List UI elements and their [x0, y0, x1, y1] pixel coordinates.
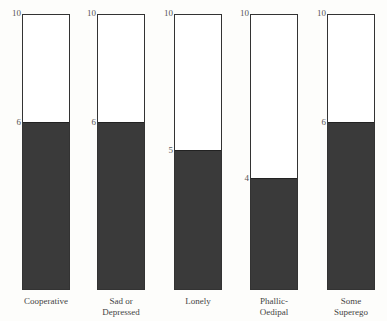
category-label: Sad orDepressed	[86, 296, 156, 318]
bar-some-superego	[327, 14, 375, 290]
bar-fill	[175, 150, 221, 289]
max-tick-label: 10	[235, 8, 249, 18]
bar-fill	[23, 122, 69, 289]
bar-fill	[98, 122, 144, 289]
value-tick-label: 6	[312, 117, 326, 127]
category-label: Phallic-Oedipal	[239, 296, 309, 318]
category-label: Lonely	[163, 296, 233, 307]
value-tick-label: 4	[235, 173, 249, 183]
bar-fill	[251, 178, 297, 289]
category-label: Cooperative	[11, 296, 81, 307]
bar-cooperative	[22, 14, 70, 290]
value-tick-label: 6	[82, 117, 96, 127]
bar-lonely	[174, 14, 222, 290]
bar-sad-or-depressed	[97, 14, 145, 290]
value-tick-label: 6	[7, 117, 21, 127]
max-tick-label: 10	[312, 8, 326, 18]
bar-fill	[328, 122, 374, 289]
value-tick-label: 5	[159, 145, 173, 155]
bar-phallic-oedipal	[250, 14, 298, 290]
category-label: SomeSuperego	[316, 296, 386, 318]
max-tick-label: 10	[159, 8, 173, 18]
max-tick-label: 10	[7, 8, 21, 18]
max-tick-label: 10	[82, 8, 96, 18]
